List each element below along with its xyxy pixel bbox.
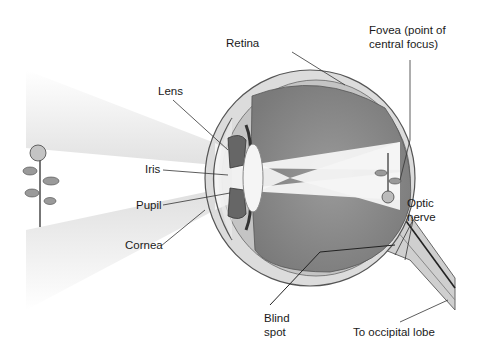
label-optic-line1: Optic [407, 197, 434, 210]
label-lens: Lens [158, 85, 183, 98]
eye-illustration [0, 0, 477, 357]
object-flower [23, 145, 59, 227]
label-occipital: To occipital lobe [353, 326, 435, 339]
label-pupil: Pupil [136, 199, 162, 212]
label-blind-line2: spot [264, 326, 286, 339]
lens [243, 144, 263, 212]
label-retina: Retina [226, 37, 259, 50]
iris [228, 135, 246, 168]
label-cornea: Cornea [125, 239, 163, 252]
eye-diagram: Retina Fovea (point of central focus) Le… [0, 0, 477, 357]
label-iris: Iris [145, 163, 160, 176]
label-fovea-line1: Fovea (point of [369, 24, 446, 37]
light-beam-bottom [26, 190, 215, 310]
light-beam-top [26, 70, 215, 165]
label-optic-line2: nerve [407, 211, 436, 224]
label-fovea-line2: central focus) [369, 38, 438, 51]
label-blind-line1: Blind [264, 312, 290, 325]
